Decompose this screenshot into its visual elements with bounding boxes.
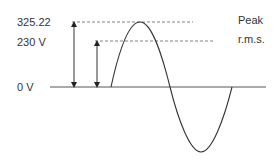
zero-label: 0 V — [17, 82, 34, 93]
peak-value-label: 325.22 — [17, 17, 51, 28]
rms-caption: r.m.s. — [238, 34, 265, 45]
ac-waveform-diagram: 325.22 230 V 0 V Peak r.m.s. — [0, 0, 278, 162]
peak-caption: Peak — [238, 15, 263, 26]
rms-value-label: 230 V — [17, 37, 46, 48]
